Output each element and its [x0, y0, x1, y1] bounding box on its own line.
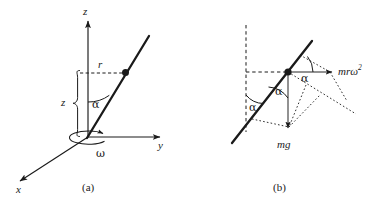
- physics-figure: z y x r z α ω (a) mg mrω2 α α α (b): [0, 0, 382, 211]
- dotted-construction-4: [289, 85, 306, 127]
- centrifugal-force-exponent: 2: [358, 63, 362, 72]
- z-axis-label: z: [83, 6, 87, 17]
- angle-label-b-middle: α: [275, 86, 282, 97]
- panel-b-caption: (b): [273, 182, 286, 193]
- bead-point-b: [284, 68, 291, 75]
- panel-a-caption: (a): [82, 182, 94, 193]
- height-label: z: [61, 97, 65, 108]
- panel-a-group: [20, 21, 160, 181]
- figure-svg: [0, 0, 382, 211]
- panel-b-group: [232, 25, 356, 143]
- angle-label-a: α: [92, 99, 99, 110]
- inclined-rod-a: [87, 36, 149, 138]
- x-axis-label: x: [16, 184, 21, 195]
- angle-arc-b-top: [308, 57, 314, 73]
- radius-label: r: [98, 59, 102, 70]
- weight-label: mg: [277, 139, 290, 150]
- dotted-construction-3: [288, 72, 356, 114]
- centrifugal-force-base: mrω: [338, 65, 358, 77]
- bead-point-a: [122, 69, 129, 76]
- height-brace: [73, 71, 80, 137]
- dotted-construction-1: [300, 55, 330, 72]
- inclined-rod-b: [232, 41, 312, 143]
- angle-label-b-top: α: [301, 73, 308, 84]
- angle-label-b-left: α: [249, 102, 256, 113]
- y-axis-label: y: [158, 140, 163, 151]
- dotted-construction-6: [289, 95, 320, 127]
- dotted-construction-5: [252, 119, 289, 127]
- centrifugal-force-label: mrω2: [338, 64, 362, 77]
- angular-velocity-label: ω: [96, 148, 105, 159]
